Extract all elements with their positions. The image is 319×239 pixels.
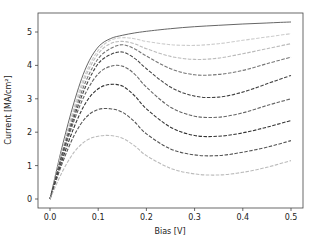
x-tick-label: 0.4 <box>236 213 249 222</box>
y-tick-label: 2 <box>27 128 32 137</box>
series-line-9 <box>50 135 291 199</box>
series-line-7 <box>50 84 291 199</box>
series-line-1 <box>50 22 291 199</box>
x-tick-label: 0.1 <box>92 213 105 222</box>
line-chart: 0.00.10.20.30.40.5 012345 Bias [V] Curre… <box>0 0 319 239</box>
x-tick-label: 0.5 <box>285 213 298 222</box>
series-line-2 <box>50 34 291 199</box>
y-tick-label: 4 <box>27 61 32 70</box>
y-tick-label: 1 <box>27 162 32 171</box>
series-line-3 <box>50 41 291 199</box>
x-tick-label: 0.0 <box>44 213 57 222</box>
y-tick-label: 3 <box>27 95 32 104</box>
y-axis-ticks: 012345 <box>27 28 38 204</box>
y-tick-label: 0 <box>27 195 32 204</box>
series-line-6 <box>50 65 291 199</box>
data-series-group <box>50 22 291 199</box>
y-tick-label: 5 <box>27 28 32 37</box>
y-axis-label: Current [MA/cm²] <box>4 75 13 144</box>
x-axis-label: Bias [V] <box>154 227 185 236</box>
x-tick-label: 0.3 <box>188 213 201 222</box>
series-line-8 <box>50 108 291 199</box>
x-axis-ticks: 0.00.10.20.30.40.5 <box>44 208 298 222</box>
x-tick-label: 0.2 <box>140 213 153 222</box>
series-line-5 <box>50 52 291 199</box>
